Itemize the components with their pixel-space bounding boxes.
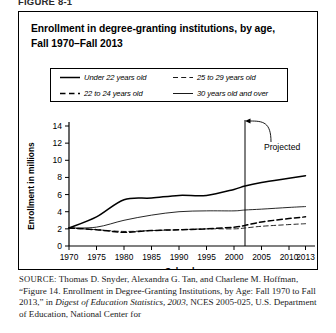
legend-item-22-to-24: 22 to 24 years old [60, 85, 143, 102]
y-tick-label: 8 [57, 172, 62, 182]
line-chart: 02468101214Enrollment in millions1970197… [19, 104, 319, 269]
projected-arrow-curve [250, 121, 271, 142]
legend-item-25-to-29: 25 to 29 years old [173, 69, 256, 86]
x-tick-label: 1990 [170, 252, 189, 262]
series-line [69, 217, 306, 232]
solid-line-icon [60, 74, 80, 81]
legend-item-under-22: Under 22 years old [60, 69, 146, 86]
x-tick-label: 1970 [60, 252, 79, 262]
y-axis-label: Enrollment in millions [26, 142, 36, 230]
y-tick-label: 4 [57, 207, 62, 217]
y-tick-label: 2 [57, 224, 62, 234]
dashed-line-icon [60, 90, 80, 97]
x-axis-label: School year [165, 266, 215, 269]
source-prefix: SOURCE: [19, 274, 57, 284]
x-tick-label: 1980 [115, 252, 134, 262]
figure-title-line-1: Enrollment in degree-granting institutio… [31, 23, 275, 34]
source-italic-title: Digest of Education Statistics, 2003 [55, 297, 186, 307]
solid-line-icon [173, 90, 193, 97]
figure-number-label: FIGURE 8-1 [18, 0, 72, 7]
legend-label: 30 years old and over [197, 89, 268, 98]
x-tick-label: 1975 [87, 252, 106, 262]
x-tick-label: 2000 [225, 252, 244, 262]
dashed-line-icon [173, 74, 193, 81]
x-tick-label: 1995 [197, 252, 216, 262]
source-note: SOURCE: Thomas D. Snyder, Alexandra G. T… [19, 274, 319, 321]
legend-row: 22 to 24 years old 30 years old and over [51, 85, 287, 102]
chart-legend: Under 22 years old 25 to 29 years old 22… [50, 68, 288, 102]
x-tick-label: 2005 [252, 252, 271, 262]
figure-title-line-2: Fall 1970–Fall 2013 [31, 38, 123, 49]
figure-title: Enrollment in degree-granting institutio… [31, 22, 309, 51]
chart-plot-area: 02468101214Enrollment in millions1970197… [19, 104, 319, 269]
y-tick-label: 14 [52, 121, 62, 131]
legend-row: Under 22 years old 25 to 29 years old [51, 69, 287, 86]
legend-item-30-and-over: 30 years old and over [173, 85, 268, 102]
projected-label: Projected [264, 142, 301, 152]
legend-label: Under 22 years old [84, 73, 146, 82]
projected-arrow-head [245, 119, 251, 124]
y-tick-label: 6 [57, 190, 62, 200]
y-tick-label: 0 [57, 241, 62, 251]
legend-label: 22 to 24 years old [84, 89, 143, 98]
figure-box: Enrollment in degree-granting institutio… [18, 11, 318, 270]
series-line [69, 207, 306, 228]
x-tick-label: 1985 [142, 252, 161, 262]
y-tick-label: 10 [52, 155, 62, 165]
y-tick-label: 12 [52, 138, 62, 148]
legend-label: 25 to 29 years old [197, 73, 256, 82]
x-tick-label: 2013 [296, 252, 315, 262]
